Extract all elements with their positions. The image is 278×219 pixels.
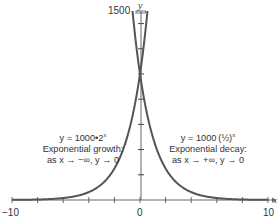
decay-annotation: y = 1000(½)x Exponential decay: as x → +… [169,132,247,165]
growth-title: Exponential growth: [43,144,124,154]
decay-curve [133,11,268,200]
exponential-chart: y x 1500 −10 0 10 y = 1000•2x Exponentia… [0,0,278,219]
growth-limit: as x → −∞, y → 0 [47,155,119,165]
x-axis-label: x [272,195,277,205]
decay-formula: y = 1000(½)x [181,132,235,143]
x-max-label: 10 [263,207,275,218]
growth-formula: y = 1000•2x [60,132,107,143]
y-max-label: 1500 [108,5,131,16]
growth-annotation: y = 1000•2x Exponential growth: as x → −… [43,132,124,165]
y-axis-label: y [137,0,143,11]
x-zero-label: 0 [137,207,143,218]
decay-limit: as x → +∞, y → 0 [172,155,244,165]
x-min-label: −10 [2,207,19,218]
growth-curve [12,11,147,200]
decay-title: Exponential decay: [169,144,247,154]
